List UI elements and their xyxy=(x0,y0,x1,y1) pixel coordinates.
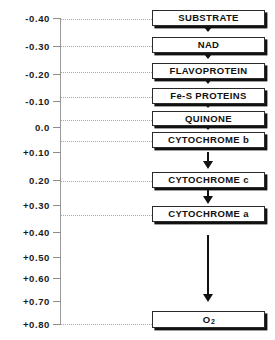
node-label: NAD xyxy=(198,40,220,50)
node-label: CYTOCHROME a xyxy=(168,209,249,219)
axis-tick xyxy=(53,257,61,258)
flow-arrow xyxy=(204,54,212,59)
axis-tick xyxy=(53,46,61,47)
node-box: CYTOCHROME c xyxy=(152,172,265,188)
leader-line xyxy=(61,46,152,47)
axis-tick-label: +0.30 xyxy=(0,200,50,211)
axis-tick-label: +0.60 xyxy=(0,273,50,284)
node-box: NAD xyxy=(152,37,265,53)
axis-tick xyxy=(53,301,61,302)
node-box: FLAVOPROTEIN xyxy=(152,63,265,79)
leader-line xyxy=(61,181,152,182)
flow-arrow-head xyxy=(203,196,213,204)
axis-tick-label: 0.20 xyxy=(0,175,50,186)
axis-tick xyxy=(53,152,61,153)
node-label: QUINONE xyxy=(185,114,232,124)
flow-arrow-head xyxy=(203,294,213,302)
axis-tick xyxy=(53,205,61,206)
node-label: FLAVOPROTEIN xyxy=(170,66,248,76)
axis-tick-label: -0.10 xyxy=(0,96,50,107)
axis-tick-label: -0.30 xyxy=(0,41,50,52)
flow-arrow xyxy=(204,27,212,32)
axis-tick-label: -0.40 xyxy=(0,13,50,24)
axis-tick-label: 0.0 xyxy=(0,122,50,133)
axis-tick xyxy=(53,180,61,181)
node-label: CYTOCHROME c xyxy=(168,175,249,185)
axis-tick-label: +0.50 xyxy=(0,252,50,263)
axis-tick-label: +0.80 xyxy=(0,319,50,330)
flow-arrow-head xyxy=(203,161,213,169)
node-label: CYTOCHROME b xyxy=(168,135,249,145)
axis-tick xyxy=(53,324,61,325)
node-box: QUINONE xyxy=(152,111,265,126)
node-label-subscript: 2 xyxy=(211,318,215,325)
leader-line xyxy=(61,97,152,98)
leader-line xyxy=(61,72,152,73)
node-box: CYTOCHROME a xyxy=(152,206,265,222)
axis-tick-label: -0.20 xyxy=(0,69,50,80)
axis-tick xyxy=(53,74,61,75)
node-box: SUBSTRATE xyxy=(152,10,265,26)
electron-transport-chain-diagram: -0.40-0.30-0.20-0.100.0+0.100.20+0.30+0.… xyxy=(0,0,275,340)
axis-tick-label: +0.40 xyxy=(0,227,50,238)
node-label: SUBSTRATE xyxy=(178,13,239,23)
node-box: CYTOCHROME b xyxy=(152,132,265,148)
axis-tick-label: +0.10 xyxy=(0,147,50,158)
node-box: Fe-S PROTEINS xyxy=(152,88,265,104)
leader-line xyxy=(61,19,152,20)
flow-arrow-stem xyxy=(207,235,209,297)
leader-line xyxy=(61,120,152,121)
node-label: Fe-S PROTEINS xyxy=(170,91,246,101)
flow-arrow xyxy=(204,79,212,84)
axis-tick xyxy=(53,232,61,233)
leader-line xyxy=(61,324,152,325)
leader-line xyxy=(61,141,152,142)
leader-line xyxy=(61,215,152,216)
axis-tick xyxy=(53,101,61,102)
axis-tick xyxy=(53,278,61,279)
axis-tick xyxy=(53,18,61,19)
node-label: O xyxy=(203,315,211,325)
node-box: O2 xyxy=(152,311,265,328)
axis-tick-label: +0.70 xyxy=(0,296,50,307)
axis-tick xyxy=(53,127,61,128)
